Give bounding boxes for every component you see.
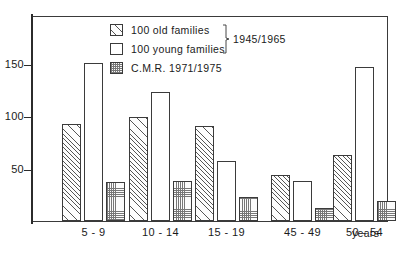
y-axis-tick-label: 100 <box>0 110 24 122</box>
y-axis-tick <box>24 65 33 66</box>
bar <box>106 182 125 221</box>
dots-swatch-icon <box>110 62 123 74</box>
brace-annotation-label: 1945/1965 <box>233 33 286 45</box>
bar <box>293 181 312 221</box>
x-axis-unit-label: years <box>352 227 379 239</box>
bar <box>217 161 236 221</box>
bar <box>195 126 214 221</box>
bar <box>151 92 170 221</box>
legend-item-label: 100 young families <box>131 43 225 55</box>
bar <box>239 197 258 221</box>
y-axis-tick-label: 50 <box>0 163 24 175</box>
bar-group <box>333 17 396 221</box>
legend-item: 100 young families <box>110 41 225 56</box>
bar <box>355 67 374 221</box>
y-axis-tick <box>24 170 33 171</box>
bar <box>271 175 290 221</box>
bar <box>377 201 396 221</box>
legend-item: C.M.R. 1971/1975 <box>110 60 225 75</box>
bar <box>129 117 148 221</box>
bar-group <box>271 17 334 221</box>
x-axis-tick-label: 10 - 14 <box>131 226 191 238</box>
empty-swatch-icon <box>110 43 123 55</box>
legend-item-label: 100 old families <box>131 24 210 36</box>
legend-item: 100 old families <box>110 22 225 37</box>
legend-item-label: C.M.R. 1971/1975 <box>131 62 222 74</box>
bar <box>84 63 103 221</box>
bar <box>333 155 352 221</box>
bar <box>173 181 192 221</box>
bar <box>315 208 334 221</box>
chart-container: 50100150 5 - 910 - 1415 - 1945 - 4950 - … <box>0 0 400 267</box>
x-axis-tick-label: 45 - 49 <box>273 226 333 238</box>
x-axis-tick-label: 5 - 9 <box>64 226 124 238</box>
hatch-swatch-icon <box>110 24 123 36</box>
chart-legend: 100 old families 100 young families C.M.… <box>110 22 225 79</box>
x-axis-tick-label: 15 - 19 <box>197 226 257 238</box>
bar <box>62 124 81 221</box>
brace-icon <box>222 24 230 54</box>
y-axis-tick-label: 150 <box>0 58 24 70</box>
y-axis-tick <box>24 117 33 118</box>
